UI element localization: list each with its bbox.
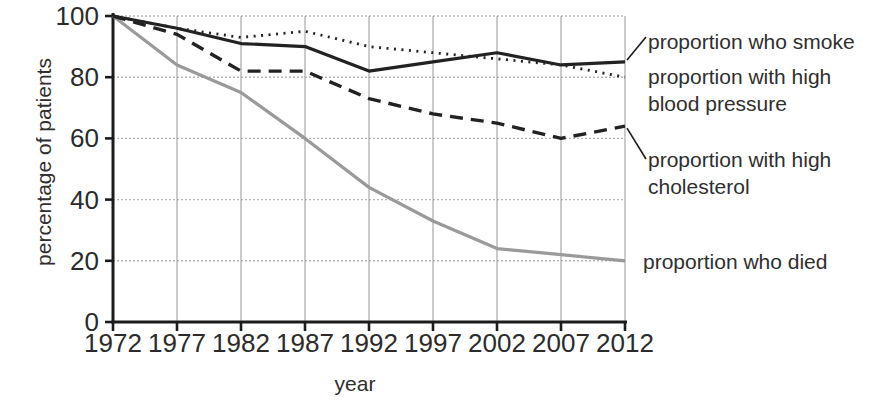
series-label-smoke: proportion who smoke xyxy=(648,28,855,55)
x-tick-label: 2002 xyxy=(468,328,526,358)
series-label-blood-pressure: proportion with high blood pressure xyxy=(648,63,873,117)
callout-smoke xyxy=(627,37,646,60)
callout-cholesterol xyxy=(627,128,646,159)
x-tick-label: 1982 xyxy=(212,328,270,358)
y-tick-label: 60 xyxy=(70,123,99,153)
series-label-cholesterol: proportion with high cholesterol xyxy=(648,146,873,200)
x-tick-label: 1987 xyxy=(276,328,334,358)
y-tick-label: 100 xyxy=(56,1,99,31)
x-tick-label: 2007 xyxy=(532,328,590,358)
y-tick-label: 40 xyxy=(70,185,99,215)
y-axis-title: percentage of patients xyxy=(32,58,56,266)
x-tick-label: 1977 xyxy=(148,328,206,358)
plot-area: 0204060801001972197719821987199219972002… xyxy=(0,0,873,403)
x-axis-title: year xyxy=(335,372,376,396)
line-chart: 0204060801001972197719821987199219972002… xyxy=(0,0,873,403)
y-tick-label: 20 xyxy=(70,246,99,276)
x-tick-label: 1992 xyxy=(340,328,398,358)
series-label-died: proportion who died xyxy=(643,248,827,275)
x-tick-label: 1972 xyxy=(84,328,142,358)
x-tick-label: 1997 xyxy=(404,328,462,358)
y-tick-label: 80 xyxy=(70,62,99,92)
x-tick-label: 2012 xyxy=(596,328,654,358)
